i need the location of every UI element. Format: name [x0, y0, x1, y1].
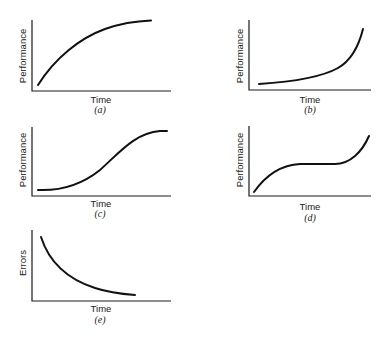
- chart-e-caption: (e): [94, 314, 106, 326]
- chart-c-ylabel: Performance: [17, 133, 28, 187]
- chart-c: Performance Time (c): [17, 127, 171, 220]
- chart-c-caption: (c): [94, 208, 106, 220]
- chart-d-xlabel: Time: [300, 201, 321, 212]
- chart-e-curve: [41, 237, 135, 295]
- chart-b: Performance Time (b): [234, 20, 371, 116]
- chart-b-caption: (b): [304, 104, 316, 116]
- chart-c-axes: [32, 127, 171, 196]
- chart-d: Performance Time (d): [234, 126, 371, 224]
- chart-b-ylabel: Performance: [234, 29, 245, 83]
- chart-e: Errors Time (e): [17, 230, 171, 326]
- chart-a-caption: (a): [94, 104, 106, 116]
- chart-d-axes: [249, 126, 371, 196]
- chart-a-curve: [38, 21, 151, 86]
- chart-b-curve: [259, 29, 363, 84]
- chart-a: Performance Time (a): [17, 20, 171, 116]
- chart-a-ylabel: Performance: [17, 29, 28, 83]
- learning-curves-figure: Performance Time (a) Performance Time (b…: [0, 0, 384, 340]
- chart-e-ylabel: Errors: [17, 250, 28, 276]
- chart-c-curve: [38, 131, 167, 190]
- chart-e-xlabel: Time: [91, 303, 112, 314]
- chart-d-ylabel: Performance: [234, 133, 245, 187]
- chart-d-caption: (d): [304, 212, 316, 224]
- chart-d-curve: [254, 136, 369, 192]
